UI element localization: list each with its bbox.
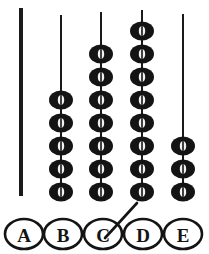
bead-d-3[interactable] bbox=[130, 137, 154, 156]
bead-c-7[interactable] bbox=[89, 45, 113, 64]
bead-e-3[interactable] bbox=[171, 137, 195, 156]
bead-d-5[interactable] bbox=[130, 91, 154, 110]
bead-b-5[interactable] bbox=[49, 91, 73, 110]
abacus-figure: ABCDE bbox=[0, 0, 209, 254]
bead-d-8[interactable] bbox=[130, 22, 154, 41]
bead-d-7[interactable] bbox=[130, 45, 154, 64]
bead-c-5[interactable] bbox=[89, 91, 113, 110]
bead-d-4[interactable] bbox=[130, 114, 154, 133]
label-text-e: E bbox=[177, 225, 190, 246]
label-text-c: C bbox=[96, 225, 110, 246]
bead-c-3[interactable] bbox=[89, 137, 113, 156]
bead-b-2[interactable] bbox=[49, 160, 73, 179]
bead-c-4[interactable] bbox=[89, 114, 113, 133]
label-text-b: B bbox=[57, 225, 70, 246]
label-text-a: A bbox=[17, 225, 31, 246]
bead-e-2[interactable] bbox=[171, 160, 195, 179]
bead-c-1[interactable] bbox=[89, 183, 113, 202]
bead-d-6[interactable] bbox=[130, 68, 154, 87]
bead-b-3[interactable] bbox=[49, 137, 73, 156]
bead-c-2[interactable] bbox=[89, 160, 113, 179]
bead-d-1[interactable] bbox=[130, 183, 154, 202]
label-text-d: D bbox=[136, 225, 150, 246]
bead-e-1[interactable] bbox=[171, 183, 195, 202]
bead-b-1[interactable] bbox=[49, 183, 73, 202]
bead-b-4[interactable] bbox=[49, 114, 73, 133]
bead-d-2[interactable] bbox=[130, 160, 154, 179]
bead-c-6[interactable] bbox=[89, 68, 113, 87]
